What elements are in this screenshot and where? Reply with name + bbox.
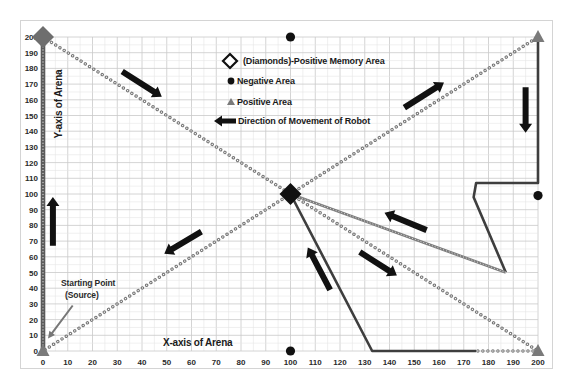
x-tick-label: 100 [284, 358, 298, 367]
legend-label-negative-area: Negative Area [237, 76, 296, 86]
y-tick-label: 90 [29, 206, 38, 215]
source-label: (Source) [65, 290, 99, 300]
x-tick-label: 130 [358, 358, 372, 367]
x-tick-label: 10 [63, 358, 72, 367]
y-tick-label: 50 [29, 269, 38, 278]
legend-item-positive-memory: (Diamonds)-Positive Memory Area [223, 54, 386, 68]
x-tick-label: 50 [162, 358, 171, 367]
black-dot-icon [228, 78, 235, 85]
x-tick-label: 30 [113, 358, 122, 367]
x-tick-label: 150 [408, 358, 422, 367]
x-axis-label: X-axis of Arena [163, 337, 233, 348]
arena-chart: 0102030405060708090100110120130140150160… [0, 0, 574, 385]
y-tick-label: 60 [29, 253, 38, 262]
y-tick-label: 120 [25, 159, 39, 168]
y-tick-label: 20 [29, 316, 38, 325]
x-tick-label: 190 [507, 358, 521, 367]
x-tick-label: 160 [432, 358, 446, 367]
legend-label-direction: Direction of Movement of Robot [238, 116, 370, 126]
y-tick-label: 190 [25, 49, 39, 58]
y-tick-label: 150 [25, 112, 39, 121]
y-tick-label: 110 [25, 174, 38, 183]
x-tick-label: 110 [309, 358, 322, 367]
negative-area-marker [533, 191, 542, 200]
y-tick-label: 70 [29, 237, 38, 246]
x-tick-label: 0 [41, 358, 46, 367]
y-tick-label: 180 [25, 64, 39, 73]
y-tick-label: 30 [29, 300, 38, 309]
y-tick-label: 170 [25, 80, 39, 89]
x-tick-label: 20 [88, 358, 97, 367]
x-tick-label: 170 [457, 358, 471, 367]
y-tick-label: 80 [29, 221, 38, 230]
legend-label-positive-area: Positive Area [237, 97, 293, 107]
x-tick-label: 70 [212, 358, 221, 367]
negative-area-marker [286, 32, 295, 41]
y-axis-label: Y-axis of Arena [53, 69, 64, 139]
x-tick-label: 120 [333, 358, 347, 367]
y-tick-label: 100 [25, 190, 39, 199]
legend-item-positive-area: Positive Area [227, 97, 293, 107]
y-tick-label: 160 [25, 96, 39, 105]
x-tick-label: 80 [237, 358, 246, 367]
starting-point-label: Starting Point [61, 278, 116, 288]
y-tick-label: 10 [29, 331, 38, 340]
legend-item-direction: Direction of Movement of Robot [214, 116, 370, 127]
y-tick-label: 140 [25, 127, 39, 136]
x-tick-label: 40 [138, 358, 147, 367]
x-tick-label: 200 [531, 358, 545, 367]
x-tick-label: 140 [383, 358, 397, 367]
legend-label-positive-memory: (Diamonds)-Positive Memory Area [243, 56, 386, 66]
y-tick-label: 130 [25, 143, 39, 152]
x-tick-label: 180 [482, 358, 496, 367]
x-tick-label: 60 [187, 358, 196, 367]
negative-area-marker [286, 346, 295, 355]
y-tick-label: 40 [29, 284, 38, 293]
x-tick-label: 90 [261, 358, 270, 367]
legend-item-negative-area: Negative Area [228, 76, 296, 86]
